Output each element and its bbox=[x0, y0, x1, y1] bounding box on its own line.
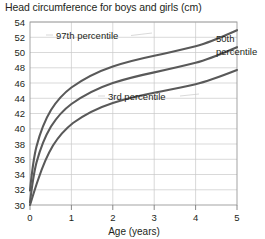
annotation-3rd-percentile: 3rd percentile bbox=[98, 91, 199, 102]
y-axis-tick-labels: 54 52 50 48 46 44 42 40 38 36 34 32 30 bbox=[14, 17, 25, 211]
x-tick-0: 0 bbox=[27, 212, 32, 223]
y-tick-36: 36 bbox=[14, 154, 25, 165]
y-tick-34: 34 bbox=[14, 169, 25, 180]
series-97th-percentile bbox=[30, 30, 237, 190]
x-axis-tickmarks bbox=[30, 205, 237, 210]
y-tick-54: 54 bbox=[14, 17, 25, 28]
label-3rd-percentile: 3rd percentile bbox=[108, 91, 166, 102]
x-axis-tick-labels: 0 1 2 3 4 5 bbox=[27, 212, 239, 223]
growth-chart: Head circumference for boys and girls (c… bbox=[0, 0, 265, 239]
label-97th-percentile: 97th percentile bbox=[56, 30, 118, 41]
x-axis-label: Age (years) bbox=[108, 226, 160, 237]
y-tick-50: 50 bbox=[14, 47, 25, 58]
curve-50th-percentile bbox=[30, 47, 237, 202]
series-50th-percentile bbox=[30, 47, 237, 202]
x-tick-3: 3 bbox=[152, 212, 157, 223]
y-tick-38: 38 bbox=[14, 139, 25, 150]
y-tick-40: 40 bbox=[14, 123, 25, 134]
y-tick-44: 44 bbox=[14, 93, 25, 104]
label-50th-percentile-line2: percentile bbox=[216, 46, 257, 57]
plot-area: 54 52 50 48 46 44 42 40 38 36 34 32 30 0… bbox=[0, 0, 265, 239]
y-tick-46: 46 bbox=[14, 78, 25, 89]
curve-97th-percentile bbox=[30, 30, 237, 190]
x-tick-1: 1 bbox=[69, 212, 74, 223]
y-tick-52: 52 bbox=[14, 32, 25, 43]
y-tick-30: 30 bbox=[14, 200, 25, 211]
label-50th-percentile-line1: 50th bbox=[216, 33, 235, 44]
y-tick-32: 32 bbox=[14, 184, 25, 195]
y-tick-42: 42 bbox=[14, 108, 25, 119]
gridlines-horizontal bbox=[30, 22, 237, 190]
annotation-97th-percentile: 97th percentile bbox=[46, 30, 152, 41]
y-tick-48: 48 bbox=[14, 62, 25, 73]
x-tick-2: 2 bbox=[110, 212, 115, 223]
x-tick-4: 4 bbox=[193, 212, 198, 223]
chart-svg: 54 52 50 48 46 44 42 40 38 36 34 32 30 0… bbox=[0, 0, 265, 239]
x-tick-5: 5 bbox=[234, 212, 239, 223]
